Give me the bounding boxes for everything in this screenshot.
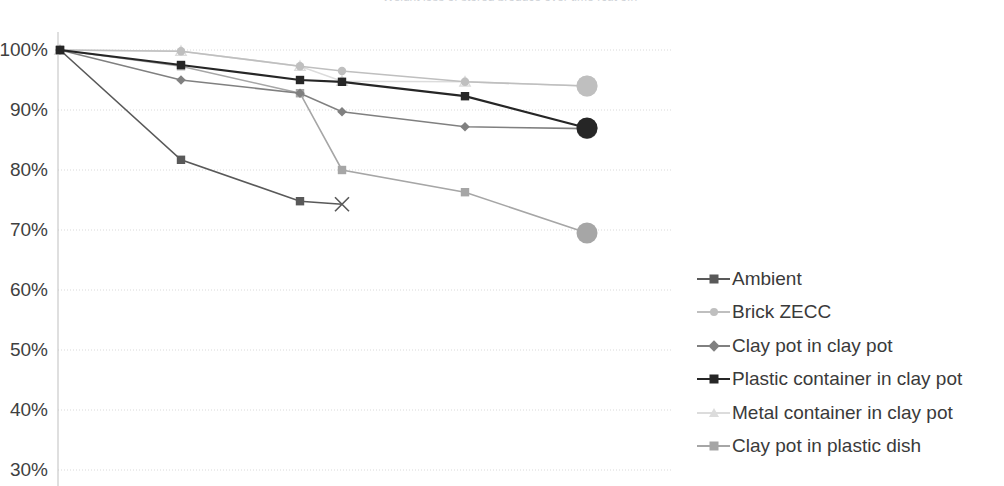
legend-item-brick-zecc[interactable]: Brick ZECC xyxy=(697,296,1004,330)
legend-key-clay-pot-in-clay-pot xyxy=(697,337,730,355)
series-line xyxy=(60,50,587,128)
series-brick-zecc xyxy=(56,46,598,97)
series-end-bubble xyxy=(577,76,598,97)
series-line xyxy=(60,50,587,129)
data-point xyxy=(296,197,304,205)
y-axis-tick-label: 50% xyxy=(10,339,48,360)
y-axis-tick-label: 40% xyxy=(10,399,48,420)
data-point xyxy=(176,75,186,85)
series-line xyxy=(60,50,587,233)
legend-label-clay-pot-in-plastic-dish: Clay pot in plastic dish xyxy=(732,436,921,456)
y-axis-tick-label: 30% xyxy=(10,459,48,480)
data-point xyxy=(337,107,347,117)
legend-key-metal-container-in-clay-pot xyxy=(697,404,730,422)
data-point xyxy=(177,47,185,55)
chart-legend: Ambient Brick ZECC Clay pot in clay pot … xyxy=(697,262,1004,463)
legend-label-ambient: Ambient xyxy=(732,269,802,289)
data-point xyxy=(56,46,64,54)
chart-container: Weight loss of stored produce over time … xyxy=(0,0,1004,486)
legend-key-clay-pot-in-plastic-dish xyxy=(697,437,730,455)
data-point xyxy=(296,62,304,70)
y-axis-tick-label: 80% xyxy=(10,159,48,180)
legend-item-plastic-container-in-clay-pot[interactable]: Plastic container in clay pot xyxy=(697,363,1004,397)
y-axis-tick-label: 60% xyxy=(10,279,48,300)
series-metal-container-in-clay-pot xyxy=(55,45,598,97)
data-point xyxy=(177,61,185,69)
y-axis-tick-label: 70% xyxy=(10,219,48,240)
data-point xyxy=(460,122,470,132)
legend-label-metal-container-in-clay-pot: Metal container in clay pot xyxy=(732,403,953,423)
legend-item-metal-container-in-clay-pot[interactable]: Metal container in clay pot xyxy=(697,396,1004,430)
legend-item-clay-pot-in-plastic-dish[interactable]: Clay pot in plastic dish xyxy=(697,430,1004,464)
legend-key-plastic-container-in-clay-pot xyxy=(697,370,730,388)
y-axis-tick-label: 90% xyxy=(10,99,48,120)
legend-label-plastic-container-in-clay-pot: Plastic container in clay pot xyxy=(732,369,962,389)
series-end-bubble xyxy=(577,118,598,139)
legend-key-brick-zecc xyxy=(697,303,730,321)
y-axis-tick-label: 100% xyxy=(0,39,48,60)
data-point xyxy=(338,78,346,86)
series-end-bubble xyxy=(577,223,598,244)
data-point xyxy=(177,156,185,164)
legend-item-ambient[interactable]: Ambient xyxy=(697,262,1004,296)
legend-label-brick-zecc: Brick ZECC xyxy=(732,302,831,322)
data-point xyxy=(461,188,469,196)
series-plastic-container-in-clay-pot xyxy=(56,46,598,139)
legend-item-clay-pot-in-clay-pot[interactable]: Clay pot in clay pot xyxy=(697,329,1004,363)
data-point xyxy=(461,92,469,100)
data-point xyxy=(296,76,304,84)
data-point xyxy=(461,78,469,86)
data-point xyxy=(338,67,346,75)
series-line xyxy=(60,50,342,204)
legend-label-clay-pot-in-clay-pot: Clay pot in clay pot xyxy=(732,336,893,356)
data-point xyxy=(338,166,346,174)
legend-key-ambient xyxy=(697,270,730,288)
